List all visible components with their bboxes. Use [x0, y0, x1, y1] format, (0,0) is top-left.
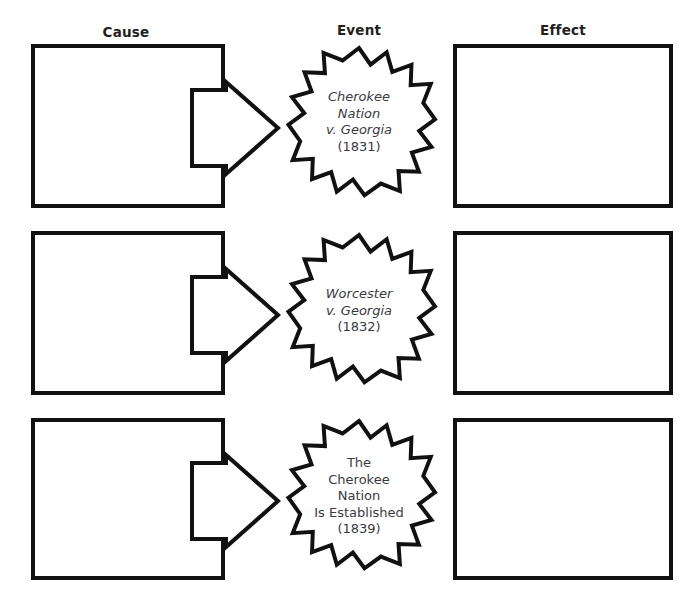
right-arrow-icon-row-2 — [190, 267, 282, 363]
right-arrow-icon-row-1 — [190, 80, 282, 176]
effect-box-row-1[interactable] — [453, 44, 673, 208]
right-arrow-icon-row-3 — [190, 453, 282, 549]
column-header-cause: Cause — [103, 24, 150, 40]
starburst-icon-row-3[interactable] — [283, 420, 435, 574]
cause-event-effect-diagram: Cause Event Effect Cherokee Nation v. Ge… — [0, 0, 699, 613]
effect-box-row-2[interactable] — [453, 231, 673, 395]
starburst-icon-row-1[interactable] — [283, 47, 435, 201]
starburst-icon-row-2[interactable] — [283, 234, 435, 388]
effect-box-row-3[interactable] — [453, 418, 673, 580]
column-header-event: Event — [337, 22, 381, 38]
column-header-effect: Effect — [540, 22, 586, 38]
